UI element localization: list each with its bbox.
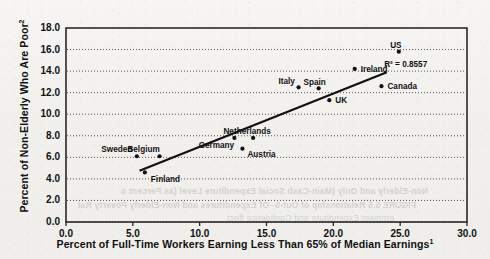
point-label-italy: Italy — [278, 77, 294, 86]
point-label-germany: Germany — [199, 141, 235, 150]
y-axis-footnote-marker: 2 — [18, 19, 25, 23]
point-label-finland: Finland — [151, 175, 180, 184]
point-label-uk: UK — [335, 96, 347, 105]
x-axis-title-text: Percent of Full-Time Workers Earning Les… — [57, 238, 430, 250]
point-label-austria: Austria — [247, 150, 275, 159]
y-axis-title-text: Percent of Non-Elderly Who Are Poor — [18, 23, 30, 212]
point-label-spain: Spain — [303, 78, 325, 87]
r-squared-annotation: R² = 0.8557 — [384, 60, 427, 69]
x-axis-title: Percent of Full-Time Workers Earning Les… — [0, 238, 490, 250]
point-label-netherlands: Netherlands — [223, 127, 270, 136]
x-axis-footnote-marker: 1 — [429, 238, 433, 245]
y-axis-title: Percent of Non-Elderly Who Are Poor2 — [18, 6, 30, 226]
point-label-belgium: Belgium — [127, 145, 159, 154]
plot-frame — [66, 28, 467, 222]
point-label-us: US — [390, 41, 401, 50]
point-label-canada: Canada — [387, 82, 417, 91]
